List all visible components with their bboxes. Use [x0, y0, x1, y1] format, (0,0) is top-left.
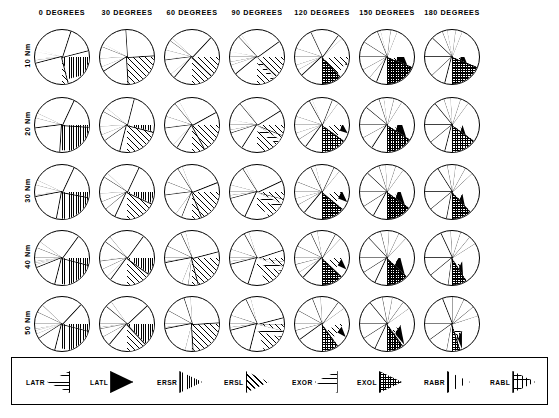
legend-label-ersl: ERSL — [224, 379, 244, 386]
column-header-150-degrees: 150 DEGREES — [359, 8, 415, 17]
legend-swatch-exol-icon — [379, 370, 402, 394]
pie-chart-40nm-30deg — [99, 230, 155, 286]
legend-swatch-latl-icon — [110, 370, 133, 394]
pie-slice — [127, 55, 155, 84]
legend-item-exor: EXOR — [292, 369, 338, 395]
legend-item-ersr: ERSR — [157, 369, 202, 395]
legend-label-latr: LATR — [26, 379, 45, 386]
legend-swatch-ersl-icon — [246, 370, 269, 394]
row-label-20-nm: 20 Nm — [23, 107, 32, 141]
pie-chart-30nm-90deg — [229, 164, 285, 220]
pie-chart-50nm-30deg — [99, 296, 155, 352]
pie-chart-10nm-180deg — [424, 29, 480, 85]
column-header-0-degrees: 0 DEGREES — [39, 8, 86, 17]
legend-item-latl: LATL — [90, 369, 133, 395]
pie-chart-40nm-60deg — [164, 230, 220, 286]
pie-chart-20nm-60deg — [164, 97, 220, 153]
pie-chart-50nm-120deg — [294, 296, 350, 352]
pie-chart-10nm-0deg — [34, 29, 90, 85]
pie-chart-40nm-180deg — [424, 230, 480, 286]
pie-chart-50nm-180deg — [424, 296, 480, 352]
pie-chart-50nm-0deg — [34, 296, 90, 352]
pie-chart-20nm-180deg — [424, 97, 480, 153]
pie-chart-10nm-30deg — [99, 29, 155, 85]
legend-label-rabl: RABL — [490, 379, 510, 386]
column-header-60-degrees: 60 DEGREES — [166, 8, 217, 17]
pie-chart-30nm-60deg — [164, 164, 220, 220]
legend-label-rabr: RABR — [424, 379, 445, 386]
pie-slice — [192, 322, 220, 351]
legend-item-rabr: RABR — [424, 369, 470, 395]
row-label-10-nm: 10 Nm — [23, 39, 32, 73]
pie-chart-40nm-90deg — [229, 230, 285, 286]
column-header-180-degrees: 180 DEGREES — [424, 8, 480, 17]
pie-chart-20nm-150deg — [359, 97, 415, 153]
pie-chart-20nm-90deg — [229, 97, 285, 153]
column-header-row: 0 DEGREES30 DEGREES60 DEGREES90 DEGREES1… — [0, 8, 559, 22]
pie-chart-matrix-figure: 0 DEGREES30 DEGREES60 DEGREES90 DEGREES1… — [0, 0, 559, 418]
column-header-30-degrees: 30 DEGREES — [101, 8, 152, 17]
legend-item-exol: EXOL — [357, 369, 402, 395]
pie-chart-50nm-150deg — [359, 296, 415, 352]
pie-chart-20nm-30deg — [99, 97, 155, 153]
pie-chart-10nm-120deg — [294, 29, 350, 85]
column-header-120-degrees: 120 DEGREES — [294, 8, 350, 17]
legend-swatch-latr-icon — [47, 370, 70, 394]
pie-chart-20nm-0deg — [34, 97, 90, 153]
legend-label-ersr: ERSR — [157, 379, 177, 386]
legend-label-latl: LATL — [90, 379, 108, 386]
pie-chart-30nm-0deg — [34, 164, 90, 220]
pie-chart-40nm-120deg — [294, 230, 350, 286]
legend-item-latr: LATR — [26, 369, 70, 395]
legend-swatch-exor-icon — [315, 370, 338, 394]
pie-chart-10nm-150deg — [359, 29, 415, 85]
row-label-50-nm: 50 Nm — [23, 306, 32, 340]
legend-label-exor: EXOR — [292, 379, 313, 386]
pie-chart-40nm-150deg — [359, 230, 415, 286]
pie-chart-30nm-120deg — [294, 164, 350, 220]
pie-chart-50nm-90deg — [229, 296, 285, 352]
pie-chart-10nm-60deg — [164, 29, 220, 85]
pie-chart-20nm-120deg — [294, 97, 350, 153]
pie-chart-50nm-60deg — [164, 296, 220, 352]
pie-chart-30nm-150deg — [359, 164, 415, 220]
legend-item-ersl: ERSL — [224, 369, 269, 395]
row-label-40-nm: 40 Nm — [23, 240, 32, 274]
legend-label-exol: EXOL — [357, 379, 377, 386]
legend-swatch-ersr-icon — [179, 370, 202, 394]
pie-chart-10nm-90deg — [229, 29, 285, 85]
pie-chart-30nm-180deg — [424, 164, 480, 220]
column-header-90-degrees: 90 DEGREES — [231, 8, 282, 17]
row-label-30-nm: 30 Nm — [23, 174, 32, 208]
legend-swatch-rabr-icon — [447, 370, 470, 394]
legend: LATRLATLERSRERSLEXOREXOLRABRRABL — [11, 357, 548, 405]
legend-item-rabl: RABL — [490, 369, 535, 395]
legend-swatch-rabl-icon — [512, 370, 535, 394]
pie-chart-40nm-0deg — [34, 230, 90, 286]
pie-chart-30nm-30deg — [99, 164, 155, 220]
